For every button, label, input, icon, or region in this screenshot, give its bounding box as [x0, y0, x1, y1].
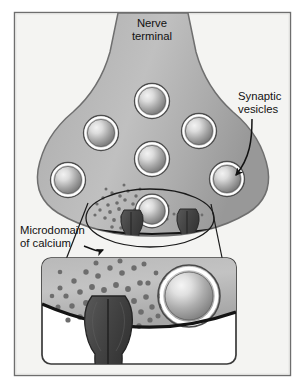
figure-root: Nerve terminal — [0, 0, 306, 388]
label-synaptic-vesicles-line2: vesicles — [238, 103, 279, 115]
synaptic-vesicle — [182, 114, 217, 149]
synaptic-vesicle-inset — [158, 265, 220, 327]
label-microdomain-line2: of calcium — [20, 237, 71, 249]
synaptic-vesicle-labeled — [210, 162, 245, 197]
label-nerve-terminal-line2: terminal — [132, 30, 172, 42]
inset-magnification-box — [42, 258, 236, 377]
label-microdomain-line1: Microdomain — [20, 224, 85, 236]
nerve-terminal-diagram: Nerve terminal — [0, 0, 306, 388]
synaptic-vesicle — [51, 163, 86, 198]
synaptic-vesicle — [84, 116, 119, 151]
synaptic-vesicle — [135, 84, 170, 119]
label-synaptic-vesicles-line1: Synaptic — [238, 90, 282, 102]
label-nerve-terminal-line1: Nerve — [137, 17, 167, 29]
label-nerve-terminal: Nerve terminal — [132, 17, 172, 42]
synaptic-vesicle — [135, 142, 170, 177]
